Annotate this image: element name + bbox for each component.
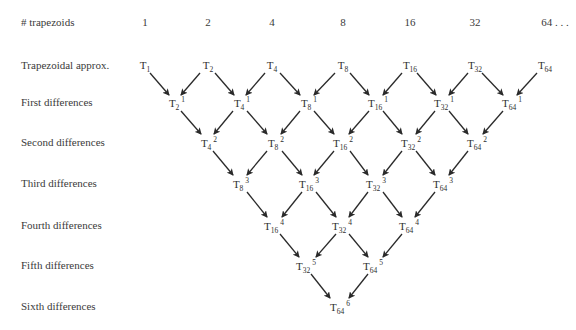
arrow	[482, 73, 503, 95]
node-t16-3: T163	[299, 179, 319, 190]
arrow	[449, 73, 468, 95]
arrow	[181, 73, 200, 95]
node-t8-3: T83	[233, 179, 249, 190]
arrow	[280, 73, 300, 95]
node-t4-1: T41	[234, 98, 250, 109]
arrow	[150, 73, 169, 95]
node-t32-1: T321	[434, 98, 454, 109]
arrow	[517, 73, 537, 95]
node-t32: T32	[468, 60, 482, 71]
node-t32-2: T322	[401, 138, 421, 149]
node-t64-1: T641	[502, 98, 522, 109]
node-t64-2: T642	[467, 138, 487, 149]
node-t1: T1	[140, 60, 150, 71]
arrow	[314, 73, 335, 95]
arrow-layer	[0, 0, 576, 330]
node-t64-6: T646	[330, 302, 350, 313]
node-t16-1: T161	[368, 98, 388, 109]
node-t32-4: T324	[332, 221, 352, 232]
arrow	[246, 73, 265, 95]
node-t2: T2	[203, 60, 213, 71]
node-t4: T4	[267, 60, 277, 71]
node-t16-2: T162	[333, 138, 353, 149]
node-t16-4: T164	[264, 221, 284, 232]
node-t4-2: T42	[201, 138, 217, 149]
romberg-difference-diagram: # trapezoids 1 2 4 8 16 32 64 . . . Trap…	[0, 0, 576, 330]
node-t2-1: T21	[169, 98, 185, 109]
arrow	[417, 73, 436, 95]
node-t8: T8	[338, 60, 348, 71]
arrow	[350, 73, 369, 95]
node-t16: T16	[403, 60, 417, 71]
node-t32-3: T323	[366, 179, 386, 190]
node-t64-4: T644	[399, 221, 419, 232]
node-t32-5: T325	[296, 261, 316, 272]
node-t64: T64	[538, 60, 552, 71]
node-t8-1: T81	[301, 98, 317, 109]
arrow	[383, 73, 402, 95]
node-t8-2: T82	[268, 138, 284, 149]
arrow	[215, 73, 234, 95]
node-t64-3: T643	[433, 179, 453, 190]
node-t64-5: T645	[363, 261, 383, 272]
